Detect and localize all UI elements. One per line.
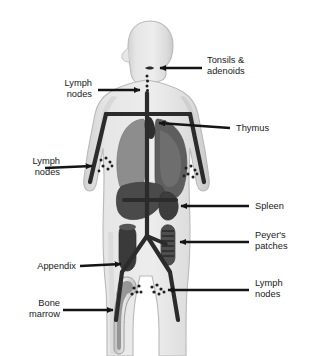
label-appendix: Appendix <box>20 261 76 272</box>
label-lymph-nodes-cervical: Lymph nodes <box>36 78 92 99</box>
label-thymus: Thymus <box>236 123 298 134</box>
label-peyers-patches: Peyer's patches <box>255 230 309 251</box>
lymphatic-system-figure: Tonsils & adenoids Lymph nodes Thymus Ly… <box>0 0 309 356</box>
label-lymph-nodes-inguinal: Lymph nodes <box>255 278 309 299</box>
label-bone-marrow: Bone marrow <box>8 298 60 319</box>
label-lymph-nodes-axillary: Lymph nodes <box>4 156 60 177</box>
label-spleen: Spleen <box>255 201 309 212</box>
label-tonsils-adenoids: Tonsils & adenoids <box>207 55 281 76</box>
